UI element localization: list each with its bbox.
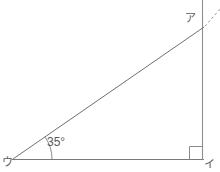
dashed-extension-line <box>205 8 220 26</box>
angle-measure-label: 35° <box>47 136 65 148</box>
hypotenuse-segment-u-to-a <box>13 27 204 159</box>
right-angle-marker-at-i <box>190 147 203 160</box>
geometry-figure-canvas: ア イ ウ 35° <box>0 0 220 172</box>
vertex-label-a: ア <box>185 13 196 24</box>
vertex-label-u: ウ <box>2 157 13 168</box>
geometry-diagram-svg <box>0 0 220 172</box>
vertex-label-i: イ <box>204 159 215 170</box>
